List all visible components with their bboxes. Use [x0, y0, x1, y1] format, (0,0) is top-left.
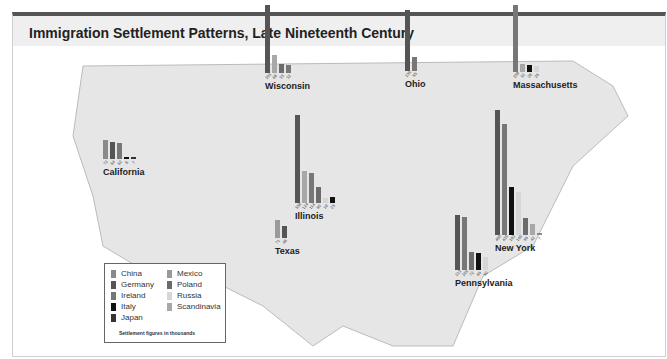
bar [330, 197, 335, 203]
legend-label: Germany [121, 280, 154, 289]
bar [103, 140, 108, 159]
legend-label: Poland [177, 280, 202, 289]
bar-value: 55 [411, 71, 418, 78]
bar-value: 48 [281, 238, 288, 245]
legend-label: Russia [177, 291, 201, 300]
legend-item: Scandinavia [167, 301, 221, 312]
bar-group: 7148Texas [275, 220, 300, 256]
swatch [111, 281, 116, 289]
legend-label: Ireland [121, 291, 145, 300]
bar [282, 226, 287, 238]
bar [513, 5, 518, 72]
bar [279, 64, 284, 73]
state-label: Massachusetts [513, 80, 578, 90]
state-label: Texas [275, 246, 300, 256]
legend-item: Germany [111, 279, 154, 290]
bar-value: 26 [533, 72, 540, 79]
legend-item: Mexico [167, 268, 221, 279]
bar [265, 5, 270, 73]
bar-value: 32 [285, 73, 292, 80]
bar-value: 259 [512, 72, 519, 79]
bar [530, 224, 535, 235]
legend-label: Japan [121, 313, 143, 322]
bar-value: 205 [461, 270, 468, 277]
bar [520, 64, 525, 72]
legend-item: Italy [111, 301, 154, 312]
bar [523, 218, 528, 235]
state-label: Illinois [295, 211, 335, 221]
page-title: Immigration Settlement Patterns, Late Ni… [29, 25, 414, 41]
bar-value: 7 [536, 235, 543, 242]
bar [316, 187, 321, 203]
swatch [111, 314, 116, 322]
bar [272, 55, 277, 73]
bar-value: 7 [130, 159, 137, 166]
bar [117, 143, 122, 159]
legend-label: Scandinavia [177, 302, 221, 311]
bar [286, 65, 291, 73]
swatch [167, 303, 172, 311]
bar-value: 50 [482, 270, 489, 277]
swatch [111, 292, 116, 300]
legend-label: Mexico [177, 269, 202, 278]
bar-group: 259322826Massachusetts [513, 5, 578, 90]
legend-item: Japan [111, 312, 154, 323]
legend-item: Ireland [111, 290, 154, 301]
state-label: Pennsylvania [455, 278, 513, 288]
swatch [167, 281, 172, 289]
bar [476, 253, 481, 270]
bar [302, 171, 307, 203]
bar [323, 198, 328, 203]
bar-group: 261683332Wisconsin [265, 5, 310, 91]
bar-value: 71 [274, 238, 281, 245]
bar [275, 220, 280, 238]
swatch [111, 270, 116, 278]
bar-value: 23 [329, 203, 336, 210]
swatch [111, 303, 116, 311]
bar-value: 213 [454, 270, 461, 277]
bar-value: 72 [468, 270, 475, 277]
bar-group: 23555Ohio [405, 10, 426, 89]
swatch [167, 270, 172, 278]
bar [462, 217, 467, 270]
bar [412, 57, 417, 71]
legend-item: Poland [167, 279, 221, 290]
bar-value: 66 [475, 270, 482, 277]
bar [527, 65, 532, 72]
bar-group: 72646287California [103, 140, 145, 177]
state-label: California [103, 167, 145, 177]
legend-item: Russia [167, 290, 221, 301]
legend-note: Settlement figures in thousands [119, 330, 195, 336]
legend-label: Italy [121, 302, 136, 311]
bar [516, 192, 521, 235]
bar-value: 28 [526, 72, 533, 79]
bar [455, 215, 460, 270]
bar [405, 10, 410, 71]
bar [295, 115, 300, 203]
bar-value: 32 [519, 72, 526, 79]
state-label: Wisconsin [265, 81, 310, 91]
legend: ChinaGermanyIrelandItalyJapan MexicoPola… [104, 263, 226, 343]
bar [110, 142, 115, 159]
legend-item: China [111, 268, 154, 279]
legend-label: China [121, 269, 142, 278]
bar [469, 252, 474, 271]
bar-group: 338124114601923Illinois [295, 115, 335, 221]
state-label: Ohio [405, 79, 426, 89]
bar [309, 173, 314, 203]
bar-group: 213205726650Pennsylvania [455, 215, 513, 288]
swatch [167, 292, 172, 300]
bar [483, 257, 488, 270]
